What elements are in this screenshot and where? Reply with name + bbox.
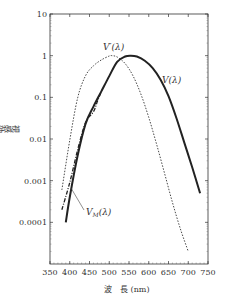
vm-leader-line [71,188,84,210]
y-tick-label: 0.1 [34,93,47,102]
x-tick-label: 400 [62,268,77,277]
y-axis-title: 視感効率 [0,124,20,133]
x-tick-label: 500 [102,268,117,277]
y-tick-label: 0.0001 [19,218,47,227]
x-tick-label: 600 [141,268,156,277]
y-tick-label: 1 [42,52,47,61]
curve-label-v: V(λ) [162,75,182,85]
x-tick-label: 450 [82,268,97,277]
x-axis-title: 波 長 (nm) [104,284,150,294]
y-tick-label: 10 [37,10,47,19]
x-tick-label: 350 [42,268,57,277]
plot-frame [50,14,208,264]
plot-labels: V′(λ) V(λ) VM(λ) 波 長 (nm) 視感効率 [0,42,182,294]
chart-canvas: 3504004505005506006507007501010.10.010.0… [0,0,230,302]
curve-label-vm: VM(λ) [86,207,112,218]
y-tick-label: 0.001 [24,177,47,186]
curve-label-v-prime: V′(λ) [103,42,125,52]
x-tick-label: 550 [121,268,136,277]
y-tick-label: 0.01 [29,135,47,144]
x-tick-label: 700 [181,268,196,277]
x-tick-label: 750 [200,268,215,277]
x-tick-label: 650 [161,268,176,277]
